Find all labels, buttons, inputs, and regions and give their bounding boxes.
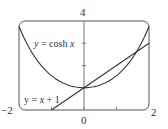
chart: 4 −2 0 2 y = cosh x y = x + 1 xyxy=(0,0,168,129)
y-tick-label-4: 4 xyxy=(80,6,86,18)
cosh-label: y = cosh x xyxy=(33,38,75,49)
x-tick-label-neg2: −2 xyxy=(1,104,13,116)
linear-line xyxy=(52,43,150,110)
x-tick-label-2: 2 xyxy=(151,106,157,118)
x-tick-label-0: 0 xyxy=(81,114,87,126)
linear-label: y = x + 1 xyxy=(24,94,60,105)
